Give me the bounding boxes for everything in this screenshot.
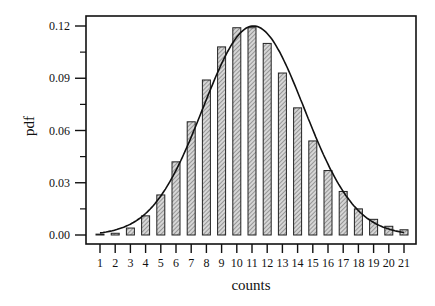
- x-tick-label: 2: [112, 256, 118, 270]
- x-tick-label: 13: [276, 256, 288, 270]
- x-tick-label: 6: [173, 256, 179, 270]
- x-tick-label: 16: [322, 256, 334, 270]
- pdf-bar-chart: 0.000.030.060.090.12 1234567891011121314…: [0, 0, 435, 306]
- bar-4: [142, 216, 150, 235]
- x-tick-label: 4: [143, 256, 149, 270]
- y-tick-label: 0.03: [49, 176, 70, 190]
- y-tick-label: 0.09: [49, 71, 70, 85]
- x-tick-label: 21: [398, 256, 410, 270]
- x-tick-label: 12: [261, 256, 273, 270]
- bar-6: [172, 162, 180, 235]
- x-tick-label: 15: [307, 256, 319, 270]
- y-axis: 0.000.030.060.090.12: [49, 19, 86, 242]
- bar-14: [294, 108, 302, 235]
- bar-8: [202, 80, 210, 235]
- bar-10: [233, 28, 241, 235]
- bar-2: [111, 233, 119, 235]
- x-tick-label: 1: [97, 256, 103, 270]
- bars-group: [96, 28, 408, 235]
- x-tick-label: 18: [352, 256, 364, 270]
- x-tick-label: 20: [383, 256, 395, 270]
- x-tick-label: 8: [203, 256, 209, 270]
- bar-11: [248, 28, 256, 235]
- bar-13: [278, 73, 286, 235]
- x-tick-label: 11: [246, 256, 258, 270]
- y-tick-label: 0.06: [49, 124, 70, 138]
- x-tick-label: 14: [292, 256, 304, 270]
- y-tick-label: 0.00: [49, 228, 70, 242]
- x-tick-label: 3: [127, 256, 133, 270]
- bar-12: [263, 43, 271, 235]
- bar-15: [309, 141, 317, 235]
- y-tick-label: 0.12: [49, 19, 70, 33]
- bar-3: [126, 228, 134, 235]
- x-tick-label: 9: [219, 256, 225, 270]
- x-axis-title: counts: [231, 277, 270, 293]
- x-axis: 123456789101112131415161718192021: [97, 244, 410, 270]
- x-tick-label: 7: [188, 256, 194, 270]
- x-tick-label: 10: [231, 256, 243, 270]
- bar-17: [339, 191, 347, 235]
- x-tick-label: 17: [337, 256, 349, 270]
- bar-16: [324, 171, 332, 235]
- y-axis-title: pdf: [21, 116, 37, 136]
- x-tick-label: 19: [368, 256, 380, 270]
- bar-9: [218, 47, 226, 235]
- bar-1: [96, 234, 104, 235]
- x-tick-label: 5: [158, 256, 164, 270]
